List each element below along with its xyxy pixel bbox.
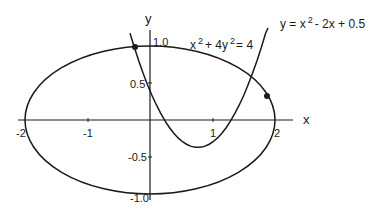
y-tick-label-0-5: 0.5 [130,78,145,90]
x-tick-label-2: 2 [274,127,280,139]
y-tick-label-neg0-5: -0.5 [128,151,147,163]
x-axis-label: x [303,112,310,127]
x-tick-label-1: 1 [210,127,216,139]
y-axis: y 1.0 0.5 -0.5 -1.0 [128,11,168,204]
intersection-point-right [264,93,270,99]
diagram-canvas: x -2 -1 1 2 y 1.0 0.5 -0.5 -1.0 x2+ 4y2=… [0,0,371,212]
x-tick-label-neg2: -2 [16,127,26,139]
intersection-point-left [132,44,138,50]
ellipse-equation-label: x2+ 4y2= 4 [190,36,253,52]
y-axis-label: y [145,11,152,26]
x-tick-label-neg1: -1 [83,127,93,139]
parabola-equation-label: y = x2- 2x + 0.5 [280,15,365,31]
